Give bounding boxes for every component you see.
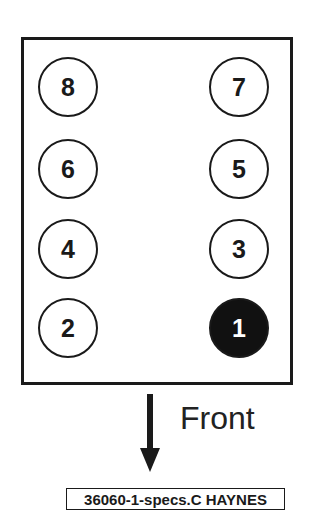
cylinder-number: 3 bbox=[232, 235, 246, 264]
cylinder-5: 5 bbox=[209, 139, 269, 199]
front-direction-label: Front bbox=[180, 400, 255, 437]
arrow-down-icon bbox=[147, 394, 153, 454]
figure-reference-label: 36060-1-specs.C HAYNES bbox=[66, 488, 285, 510]
cylinder-number: 7 bbox=[232, 73, 246, 102]
arrow-head-icon bbox=[140, 448, 160, 472]
cylinder-2: 2 bbox=[38, 298, 98, 358]
cylinder-number: 5 bbox=[232, 155, 246, 184]
cylinder-8: 8 bbox=[38, 57, 98, 117]
cylinder-3: 3 bbox=[209, 219, 269, 279]
cylinder-6: 6 bbox=[38, 139, 98, 199]
cylinder-4: 4 bbox=[38, 219, 98, 279]
cylinder-number: 2 bbox=[61, 314, 75, 343]
cylinder-number: 4 bbox=[61, 235, 75, 264]
cylinder-number: 8 bbox=[61, 73, 75, 102]
cylinder-1-highlighted: 1 bbox=[209, 298, 269, 358]
cylinder-7: 7 bbox=[209, 57, 269, 117]
cylinder-number: 6 bbox=[61, 155, 75, 184]
cylinder-number: 1 bbox=[232, 314, 246, 343]
